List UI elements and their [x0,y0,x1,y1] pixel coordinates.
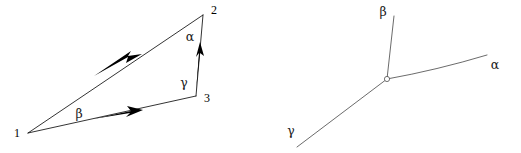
junction-panel: α β γ [287,4,500,148]
junction-ray-alpha [387,55,487,79]
junction-ray-label-beta: β [379,4,386,19]
vertex-label-2: 2 [211,3,217,17]
junction-node-marker [384,76,389,81]
junction-ray-label-alpha: α [491,57,500,72]
triangle-panel: 1 2 3 α β γ [14,3,217,140]
junction-ray-beta [387,16,394,79]
triangle-angle-label-gamma: γ [180,75,187,90]
junction-ray-gamma [297,79,387,147]
figure-canvas: 1 2 3 α β γ α β γ [0,0,521,153]
vertex-label-3: 3 [204,91,210,105]
triangle-edge-1-3 [28,96,196,133]
geometry-figure: 1 2 3 α β γ α β γ [0,0,521,153]
junction-ray-label-gamma: γ [287,123,294,138]
triangle-angle-label-alpha: α [186,29,195,44]
triangle-angle-label-beta: β [75,106,82,121]
vertex-label-1: 1 [14,126,20,140]
